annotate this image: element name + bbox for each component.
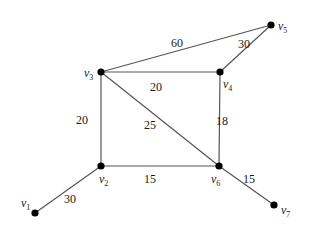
node-v4 <box>216 68 223 75</box>
node-label-v4: v4 <box>223 77 232 93</box>
edge-weight-v2-v6: 15 <box>144 172 156 186</box>
node-v7 <box>270 201 277 208</box>
node-label-v5: v5 <box>278 19 287 35</box>
node-label-v3: v3 <box>84 66 93 82</box>
node-v3 <box>97 68 104 75</box>
node-label-v6: v6 <box>211 172 220 188</box>
edge-weight-v4-v5: 30 <box>238 37 250 51</box>
node-label-v2: v2 <box>99 172 108 188</box>
node-v1 <box>31 209 38 216</box>
edge-weight-v3-v4: 20 <box>150 80 162 94</box>
edge-weight-v6-v7: 15 <box>243 172 255 186</box>
weighted-graph: 603020202518151530 v1v2v3v4v5v6v7 <box>0 0 309 241</box>
node-v5 <box>267 21 274 28</box>
edge-weight-v1-v2: 30 <box>64 192 76 206</box>
edge-weight-v3-v6: 25 <box>144 118 156 132</box>
edge-weight-v4-v6: 18 <box>216 114 228 128</box>
node-label-v1: v1 <box>21 196 30 212</box>
edge-weight-v3-v5: 60 <box>171 36 183 50</box>
node-v6 <box>215 162 222 169</box>
edge-weight-labels: 603020202518151530 <box>64 36 255 206</box>
node-v2 <box>97 162 104 169</box>
edge-weight-v3-v2: 20 <box>76 113 88 127</box>
node-label-v7: v7 <box>281 203 290 219</box>
